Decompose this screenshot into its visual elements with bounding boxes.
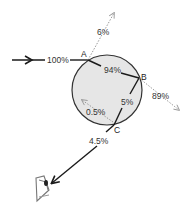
label-reflected-c: 0.5% — [86, 107, 106, 117]
eye-icon — [36, 176, 49, 201]
exit-ray-to-eye — [52, 146, 97, 183]
label-reflected-b-c: 5% — [121, 97, 134, 107]
point-label-b: B — [141, 72, 147, 82]
exit-ray-c — [106, 125, 114, 132]
label-incoming: 100% — [47, 55, 69, 65]
point-label-a: A — [81, 49, 87, 59]
label-exit: 4.5% — [89, 136, 109, 146]
label-transmitted-b: 89% — [152, 91, 169, 101]
point-label-c: C — [114, 125, 120, 135]
label-reflected-a: 6% — [97, 27, 110, 37]
raindrop-light-diagram: 100% 6% 94% 89% 5% 0.5% 4.5% A B C — [0, 0, 190, 211]
label-refracted-a-b: 94% — [104, 65, 121, 75]
